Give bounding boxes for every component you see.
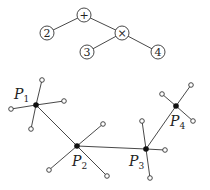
leaf-edge: [146, 149, 150, 178]
hub-P4: P4: [160, 83, 196, 131]
leaf-edge: [77, 124, 103, 146]
hub-node: [33, 102, 39, 108]
leaf-node: [189, 83, 194, 88]
expression-tree-nodes: +2×34: [40, 8, 165, 59]
hub-edge: [77, 146, 146, 149]
hub-label: P4: [169, 113, 185, 131]
node-label: 4: [155, 46, 162, 59]
hub-label-letter: P: [71, 153, 82, 169]
leaf-node: [101, 122, 106, 127]
node-label: 2: [44, 27, 51, 40]
node-label: ×: [117, 27, 126, 40]
leaf-node: [47, 168, 52, 173]
leaf-node: [140, 119, 145, 124]
tree-node-four: 4: [151, 45, 165, 59]
tree-node-times: ×: [115, 26, 129, 40]
leaf-edge: [146, 149, 165, 150]
leaf-node: [163, 148, 168, 153]
hub-label-letter: P: [169, 113, 180, 129]
hub-label-subscript: 1: [23, 94, 29, 104]
hub-node: [143, 146, 149, 152]
hub-node: [74, 143, 80, 149]
tree-node-two: 2: [40, 26, 54, 40]
leaf-node: [105, 174, 110, 179]
diagram-canvas: +2×34 P1P2P3P4: [0, 0, 210, 190]
leaf-node: [160, 92, 165, 97]
hub-label-subscript: 3: [138, 161, 144, 171]
hub-label-letter: P: [13, 86, 24, 102]
hub-node: [173, 103, 179, 109]
leaf-node: [62, 99, 67, 104]
leaf-node: [191, 119, 196, 124]
leaf-edge: [11, 105, 36, 109]
hub-graph-nodes: P1P2P3P4: [9, 78, 196, 181]
leaf-edge: [31, 105, 36, 129]
hub-label: P1: [13, 86, 29, 104]
hub-P2: P2: [47, 122, 110, 179]
hub-graph-edges: [11, 80, 193, 178]
node-label: 3: [84, 46, 91, 59]
leaf-node: [29, 127, 34, 132]
leaf-node: [148, 176, 153, 181]
expression-tree-edges: [47, 15, 158, 52]
leaf-node: [40, 78, 45, 83]
tree-node-plus: +: [77, 8, 91, 22]
leaf-node: [9, 107, 14, 112]
hub-label: P3: [128, 153, 144, 171]
hub-edge: [36, 105, 77, 146]
node-label: +: [79, 9, 88, 22]
hub-label-letter: P: [128, 153, 139, 169]
tree-node-three: 3: [80, 45, 94, 59]
leaf-edge: [36, 101, 64, 105]
hub-P1: P1: [9, 78, 67, 132]
leaf-edge: [142, 121, 146, 149]
hub-label-subscript: 4: [179, 121, 185, 131]
leaf-edge: [176, 85, 191, 106]
hub-label: P2: [71, 153, 87, 171]
hub-label-subscript: 2: [81, 161, 87, 171]
leaf-edge: [36, 80, 42, 105]
